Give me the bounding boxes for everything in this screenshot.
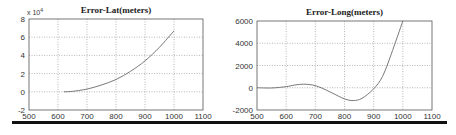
y-axis-tick-labels: -20000200040006000 xyxy=(233,17,254,115)
svg-text:2: 2 xyxy=(21,70,26,79)
svg-text:4: 4 xyxy=(21,51,26,60)
svg-text:-2000: -2000 xyxy=(233,106,254,115)
svg-text:800: 800 xyxy=(338,112,352,121)
error-long-chart: Error-Long(meters)5006007008009001000110… xyxy=(228,0,456,120)
error-long-plot: Error-Long(meters)5006007008009001000110… xyxy=(228,0,456,120)
chart-title: Error-Long(meters) xyxy=(306,7,383,17)
y-multiplier-label: x 104 xyxy=(27,7,43,16)
svg-text:-2: -2 xyxy=(18,106,26,115)
bottom-rule-divider xyxy=(12,121,447,124)
error-lat-plot: Error-Lat(meters)x 104500600700800900100… xyxy=(0,0,228,120)
svg-text:1100: 1100 xyxy=(423,112,441,121)
grid-lines xyxy=(257,21,432,110)
x-axis-tick-labels: 50060070080090010001100 xyxy=(250,112,441,121)
svg-text:600: 600 xyxy=(51,112,65,121)
svg-text:900: 900 xyxy=(138,112,152,121)
x-axis-tick-labels: 50060070080090010001100 xyxy=(22,112,212,121)
error-lat-chart: Error-Lat(meters)x 104500600700800900100… xyxy=(0,0,228,120)
chart-title: Error-Lat(meters) xyxy=(81,5,151,15)
grid-lines xyxy=(29,19,203,110)
svg-text:800: 800 xyxy=(109,112,123,121)
svg-text:700: 700 xyxy=(80,112,94,121)
svg-text:2000: 2000 xyxy=(235,62,253,71)
svg-text:1100: 1100 xyxy=(194,112,212,121)
svg-text:6000: 6000 xyxy=(235,17,253,26)
y-axis-tick-labels: -202468 xyxy=(18,15,26,115)
svg-text:1000: 1000 xyxy=(165,112,183,121)
svg-text:1000: 1000 xyxy=(394,112,412,121)
svg-text:700: 700 xyxy=(309,112,323,121)
series-line xyxy=(64,31,174,92)
svg-text:0: 0 xyxy=(249,84,254,93)
svg-text:0: 0 xyxy=(21,88,26,97)
svg-text:900: 900 xyxy=(367,112,381,121)
svg-text:4000: 4000 xyxy=(235,39,253,48)
series-line xyxy=(257,21,403,101)
svg-text:600: 600 xyxy=(279,112,293,121)
svg-text:8: 8 xyxy=(21,15,26,24)
svg-text:6: 6 xyxy=(21,33,26,42)
